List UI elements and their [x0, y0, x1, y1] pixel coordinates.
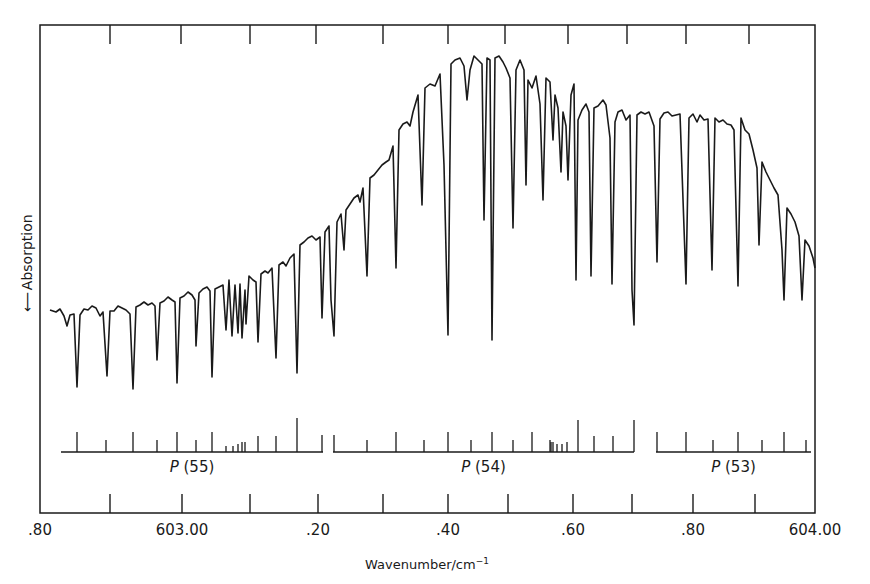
plot-border	[40, 25, 815, 513]
x-axis-label-text: Wavenumber/cm	[365, 557, 476, 572]
x-tick-label: 603.00	[156, 521, 209, 539]
spectrum-chart	[0, 0, 870, 584]
line-assignment-bars	[61, 418, 811, 452]
down-arrow-icon: ⟵	[19, 290, 35, 311]
x-tick-label: .80	[681, 521, 705, 539]
x-tick-label: .60	[561, 521, 585, 539]
axis-ticks	[110, 25, 755, 513]
x-axis-label: Wavenumber/cm−1	[365, 556, 489, 572]
x-tick-label: .80	[28, 521, 52, 539]
y-axis-label: ⟵ Absorption	[19, 214, 35, 311]
x-axis-label-exponent: −1	[476, 556, 489, 566]
y-axis-label-text: Absorption	[19, 214, 35, 290]
x-tick-label: .20	[306, 521, 330, 539]
x-tick-label: .40	[436, 521, 460, 539]
absorption-trace	[50, 56, 815, 389]
x-tick-label: 604.00	[789, 521, 842, 539]
branch-label: P (54)	[461, 458, 506, 476]
branch-label: P (55)	[170, 458, 215, 476]
branch-label: P (53)	[711, 458, 756, 476]
plot-frame	[40, 25, 815, 513]
